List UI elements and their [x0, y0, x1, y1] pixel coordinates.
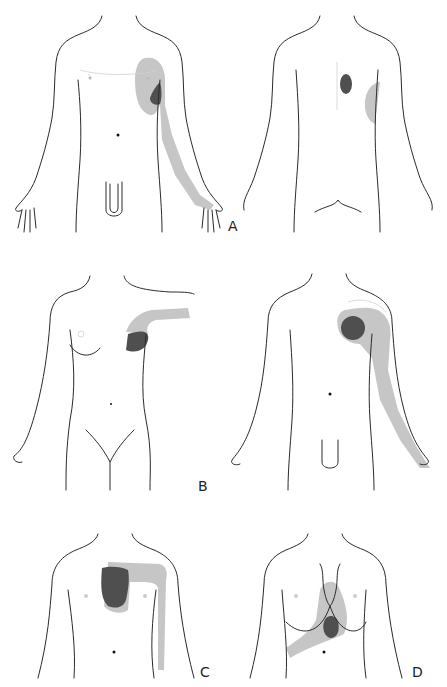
referred-pain-light-area: [135, 58, 214, 210]
panel-c: C: [0, 510, 230, 687]
panel-label-d: D: [412, 664, 423, 680]
referred-pain-light-area: [286, 582, 347, 658]
male-front-figure-2: [220, 250, 447, 500]
panel-label-b: B: [198, 478, 208, 494]
panel-d: D: [220, 510, 447, 687]
male-front-figure: [0, 0, 230, 240]
panel-label-c: C: [200, 664, 210, 680]
referred-pain-light-area: [126, 308, 190, 334]
torso-front-figure-d: [220, 510, 447, 687]
primary-pain-dark-area: [340, 74, 352, 94]
panel-a-front: [0, 0, 230, 240]
panel-label-a: A: [228, 218, 238, 234]
referred-pain-light-area: [365, 82, 380, 124]
primary-pain-dark-area: [101, 567, 129, 608]
primary-pain-dark-area: [341, 316, 365, 340]
panel-a-back: A: [220, 0, 447, 240]
male-back-figure: [220, 0, 447, 240]
female-front-figure: [0, 250, 230, 500]
panel-male-shoulder: [220, 250, 447, 500]
panel-b: B: [0, 250, 230, 500]
torso-front-figure-c: [0, 510, 230, 687]
